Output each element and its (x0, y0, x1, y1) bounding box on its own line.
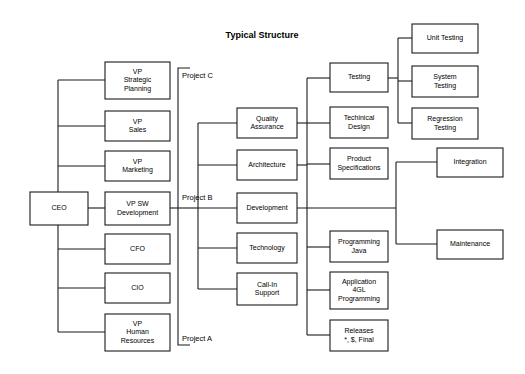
node-label-system-testing-line2: Testing (434, 82, 456, 90)
node-label-application-4gl-programming-line2: 4GL (352, 286, 365, 293)
node-label-techinical-design-line2: Design (348, 123, 370, 131)
node-label-architecture-line1: Architecture (248, 161, 285, 168)
node-label-vp-human-resources-line3: Resources (121, 337, 155, 344)
node-vp-sales[interactable]: VPSales (105, 111, 170, 141)
node-label-vp-strategic-planning-line1: VP (133, 68, 143, 75)
node-techinical-design[interactable]: TechinicalDesign (330, 107, 388, 138)
node-vp-marketing[interactable]: VPMarketing (105, 151, 170, 181)
node-label-integration-line1: Integration (453, 158, 486, 166)
node-label-quality-assurance-line1: Quality (256, 115, 278, 123)
node-technology[interactable]: Technology (237, 233, 297, 263)
node-label-product-specifications-line1: Product (347, 155, 371, 162)
project-label-project-b: Project B (182, 193, 212, 202)
node-label-call-in-support-line2: Support (255, 289, 280, 297)
node-releases[interactable]: Releases*, $, Final (330, 320, 388, 351)
node-label-vp-sw-development-line1: VP SW (126, 200, 149, 207)
node-regression-testing[interactable]: RegressionTesting (412, 108, 478, 139)
node-label-unit-testing-line1: Unit Testing (427, 34, 464, 42)
node-label-vp-sw-development-line2: Development (117, 209, 158, 217)
node-label-vp-sales-line2: Sales (129, 126, 147, 133)
node-label-vp-human-resources-line2: Human (126, 328, 149, 335)
node-label-releases-line2: *, $, Final (344, 336, 374, 343)
node-label-vp-strategic-planning-line2: Strategic (124, 76, 152, 84)
node-label-cfo-line1: CFO (130, 245, 145, 252)
node-maintenance[interactable]: Maintenance (437, 230, 503, 259)
node-cio[interactable]: CIO (105, 273, 170, 303)
node-quality-assurance[interactable]: QualityAssurance (237, 108, 297, 138)
node-label-programming-java-line2: Java (352, 247, 367, 254)
node-vp-sw-development[interactable]: VP SWDevelopment (105, 192, 170, 225)
node-label-vp-marketing-line1: VP (133, 158, 143, 165)
node-integration[interactable]: Integration (437, 148, 503, 177)
node-vp-strategic-planning[interactable]: VPStrategicPlanning (105, 62, 170, 99)
node-label-techinical-design-line1: Techinical (344, 114, 375, 121)
node-label-regression-testing-line2: Testing (434, 124, 456, 132)
typical-structure-diagram: Typical Structure CEOVPStrategicPlanning… (0, 0, 525, 374)
node-label-application-4gl-programming-line3: Programming (338, 295, 380, 303)
node-label-vp-marketing-line2: Marketing (122, 166, 153, 174)
node-label-vp-strategic-planning-line3: Planning (124, 85, 151, 93)
node-label-application-4gl-programming-line1: Application (342, 278, 376, 286)
diagram-background (0, 0, 525, 374)
node-call-in-support[interactable]: Call-InSupport (237, 273, 297, 305)
node-system-testing[interactable]: SystemTesting (412, 66, 478, 97)
node-label-releases-line1: Releases (344, 327, 374, 334)
node-label-cio-line1: CIO (131, 284, 144, 291)
node-label-technology-line1: Technology (249, 244, 285, 252)
node-label-testing-line1: Testing (348, 73, 370, 81)
node-application-4gl-programming[interactable]: Application4GLProgramming (330, 272, 388, 309)
node-label-ceo-line1: CEO (51, 204, 67, 211)
node-development[interactable]: Development (237, 193, 297, 223)
node-architecture[interactable]: Architecture (237, 150, 297, 180)
node-vp-human-resources[interactable]: VPHumanResources (105, 314, 170, 351)
page-title: Typical Structure (226, 30, 299, 40)
project-label-project-c: Project C (182, 71, 213, 80)
node-label-maintenance-line1: Maintenance (450, 240, 490, 247)
node-label-programming-java-line1: Programming (338, 238, 380, 246)
project-label-project-a: Project A (182, 334, 212, 343)
node-label-quality-assurance-line2: Assurance (250, 123, 283, 130)
node-label-regression-testing-line1: Regression (427, 115, 463, 123)
node-product-specifications[interactable]: ProductSpecifications (330, 148, 388, 179)
node-label-development-line1: Development (246, 204, 287, 212)
node-label-call-in-support-line1: Call-In (257, 281, 277, 288)
node-label-vp-sales-line1: VP (133, 118, 143, 125)
node-cfo[interactable]: CFO (105, 234, 170, 264)
node-ceo[interactable]: CEO (30, 192, 88, 225)
node-label-product-specifications-line2: Specifications (337, 164, 381, 172)
node-programming-java[interactable]: ProgrammingJava (330, 231, 388, 262)
node-label-vp-human-resources-line1: VP (133, 320, 143, 327)
node-label-system-testing-line1: System (433, 73, 457, 81)
org-chart-canvas: Typical Structure CEOVPStrategicPlanning… (0, 0, 525, 374)
node-testing[interactable]: Testing (330, 63, 388, 92)
node-unit-testing[interactable]: Unit Testing (412, 24, 478, 53)
